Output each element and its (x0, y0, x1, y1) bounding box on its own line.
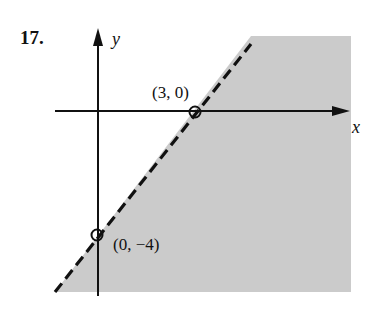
problem-number: 17. (20, 28, 44, 47)
graph-figure: 17. y x (3, 0) (0, −4) (0, 0, 378, 309)
point-label-0-neg4: (0, −4) (113, 236, 159, 253)
shaded-region (55, 36, 351, 292)
y-axis-arrow-icon (93, 28, 103, 46)
point-label-3-0: (3, 0) (152, 84, 189, 101)
x-axis-label: x (352, 118, 360, 136)
graph-canvas (0, 0, 378, 309)
y-axis-label: y (112, 30, 120, 48)
